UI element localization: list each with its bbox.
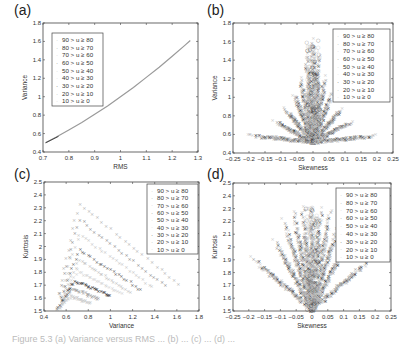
svg-text:×: × — [250, 132, 254, 138]
svg-text:×: × — [75, 224, 79, 230]
x-tick-label: −0.1 — [274, 314, 287, 320]
svg-text:×: × — [299, 137, 303, 143]
legend-entry: 30 > u ≥ 20 — [343, 78, 375, 85]
legend-entry: 60 > u ≥ 50 — [157, 209, 189, 216]
svg-text:×: × — [350, 118, 354, 124]
svg-text:×: × — [286, 261, 290, 267]
y-tick-label: 1.5 — [223, 308, 232, 314]
legend-entry: 90 > u ≥ 80 — [343, 32, 375, 39]
svg-text:×: × — [329, 90, 333, 96]
x-tick-label: −0.15 — [257, 156, 273, 162]
svg-text:×: × — [249, 253, 253, 259]
chart-panel-b: ××××××××××××××××××××××××××××××××××××××××… — [211, 20, 399, 171]
svg-text:×: × — [266, 269, 270, 275]
svg-text:×: × — [331, 288, 335, 294]
svg-text:○: ○ — [314, 301, 319, 307]
svg-text:×: × — [328, 138, 332, 144]
svg-text:×: × — [326, 291, 330, 297]
svg-text:×: × — [338, 281, 342, 287]
svg-text:×: × — [92, 229, 96, 235]
svg-text:○: ○ — [308, 76, 313, 82]
x-tick-label: 0 — [311, 156, 315, 162]
svg-text:×: × — [280, 279, 284, 285]
y-tick-label: 0.8 — [33, 112, 42, 118]
svg-text:×: × — [329, 243, 333, 249]
y-tick-label: 1.8 — [223, 270, 232, 276]
svg-text:○: ○ — [306, 248, 311, 254]
legend: ·90 > u ≥ 80·80 > u ≥ 70·70 > u ≥ 60·60 … — [336, 188, 390, 262]
svg-text:○: ○ — [315, 98, 320, 104]
y-tick-label: 2.4 — [34, 192, 43, 198]
y-tick-label: 0.8 — [223, 113, 232, 119]
legend-entry: 50 > u ≥ 40 — [62, 67, 94, 74]
svg-text:×: × — [319, 204, 323, 210]
legend-entry: 60 > u ≥ 50 — [343, 55, 375, 62]
svg-text:○: ○ — [306, 136, 311, 142]
svg-text:×: × — [292, 221, 296, 227]
x-tick-label: 0.2 — [373, 156, 382, 162]
svg-text:○: ○ — [314, 47, 319, 53]
x-tick-label: 1.3 — [194, 155, 203, 161]
svg-text:×: × — [93, 244, 97, 250]
x-tick-label: 0.9 — [90, 155, 99, 161]
svg-text:×: × — [155, 264, 159, 270]
svg-text:×: × — [103, 249, 107, 255]
x-axis-label: RMS — [113, 163, 128, 170]
svg-text:○: ○ — [317, 120, 322, 126]
svg-text:×: × — [353, 269, 357, 275]
y-tick-label: 2.5 — [34, 179, 43, 185]
svg-text:○: ○ — [314, 138, 319, 144]
svg-text:×: × — [296, 235, 300, 241]
svg-text:×: × — [150, 259, 154, 265]
y-tick-label: 2.1 — [34, 231, 43, 237]
svg-text:○: ○ — [305, 269, 310, 275]
x-tick-label: −0.2 — [243, 156, 256, 162]
svg-text:○: ○ — [311, 272, 316, 278]
svg-text:×: × — [331, 236, 335, 242]
legend-entry: 10 > u ≥ 0 — [157, 246, 185, 253]
y-tick-label: 1.7 — [223, 282, 232, 288]
svg-text:○: ○ — [310, 207, 315, 213]
x-tick-label: 0.05 — [323, 156, 335, 162]
legend-entry: 40 > u ≥ 30 — [62, 74, 94, 81]
y-tick-label: 2 — [39, 244, 43, 250]
legend-entry: 70 > u ≥ 60 — [346, 207, 378, 214]
legend-entry: 80 > u ≥ 70 — [62, 44, 94, 51]
svg-text:×: × — [261, 267, 265, 273]
svg-text:×: × — [324, 228, 328, 234]
svg-text:○: ○ — [316, 107, 321, 113]
svg-text:×: × — [319, 210, 323, 216]
x-tick-label: −0.15 — [257, 314, 273, 320]
y-axis-label: Variance — [211, 75, 218, 101]
y-tick-label: 1.6 — [33, 38, 42, 44]
legend-entry: 60 > u ≥ 50 — [62, 59, 94, 66]
svg-text:×: × — [155, 276, 159, 282]
svg-text:×: × — [144, 268, 148, 274]
svg-text:○: ○ — [310, 235, 315, 241]
svg-text:×: × — [278, 252, 282, 258]
svg-text:×: × — [290, 92, 294, 98]
legend-entry: 10 > u ≥ 0 — [62, 97, 90, 104]
svg-text:×: × — [276, 241, 280, 247]
svg-text:×: × — [293, 255, 297, 261]
svg-text:×: × — [273, 274, 277, 280]
svg-text:×: × — [271, 117, 275, 123]
svg-text:×: × — [327, 255, 331, 261]
svg-text:×: × — [246, 131, 250, 137]
svg-text:×: × — [163, 282, 167, 288]
legend-entry: 90 > u ≥ 80 — [157, 187, 189, 194]
x-tick-label: 0.25 — [387, 156, 399, 162]
x-tick-label: 0.4 — [40, 314, 49, 320]
legend-entry: 20 > u ≥ 10 — [62, 90, 94, 97]
svg-text:×: × — [294, 291, 298, 297]
svg-text:×: × — [99, 219, 103, 225]
y-tick-label: 1.6 — [34, 295, 43, 301]
y-axis-label: Variance — [21, 75, 28, 101]
svg-text:○: ○ — [305, 127, 310, 133]
y-tick-label: 1.4 — [223, 57, 232, 63]
svg-text:○: ○ — [308, 111, 313, 117]
legend-entry: 20 > u ≥ 10 — [343, 86, 375, 93]
svg-text:×: × — [96, 295, 100, 301]
svg-text:×: × — [341, 136, 345, 142]
x-tick-label: −0.05 — [289, 314, 305, 320]
